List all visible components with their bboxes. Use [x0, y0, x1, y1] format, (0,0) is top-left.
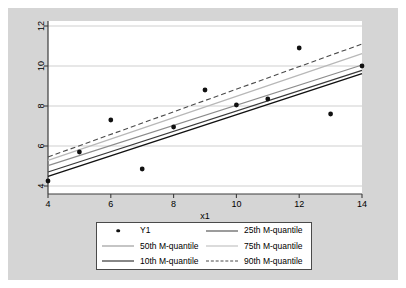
x-tick-label: 10 [231, 199, 241, 209]
legend-item-label: 50th M-quantile [140, 242, 199, 251]
line-icon [102, 245, 134, 246]
x-axis-label: x1 [200, 211, 210, 221]
y-tick-label: 8 [36, 103, 46, 108]
scatter-point [171, 125, 176, 130]
legend-item: 75th M-quantile [201, 238, 313, 253]
legend-line-icon [205, 241, 239, 251]
x-tick-label: 4 [45, 199, 50, 209]
legend-item: 25th M-quantile [201, 223, 313, 238]
line-icon [206, 245, 238, 246]
line-icon [102, 261, 134, 262]
y-tick-label: 4 [36, 183, 46, 188]
line-icon [206, 261, 238, 262]
scatter-point [328, 112, 333, 117]
legend-item-label: 25th M-quantile [244, 226, 303, 235]
y-tick-label: 12 [36, 21, 46, 31]
scatter-point [360, 64, 365, 69]
x-tick-label: 12 [294, 199, 304, 209]
legend-line-icon [205, 226, 239, 236]
legend-line-icon [205, 256, 239, 266]
legend-item: 50th M-quantile [97, 238, 201, 253]
scatter-point [234, 103, 239, 108]
legend-item-label: 90th M-quantile [244, 257, 303, 266]
x-tick-label: 8 [171, 199, 176, 209]
scatter-point [46, 179, 51, 184]
legend-item: Y1 [97, 223, 201, 238]
legend-item-label: 10th M-quantile [140, 257, 199, 266]
y-tick-label: 10 [36, 61, 46, 71]
dot-icon [116, 229, 120, 233]
scatter-point [77, 150, 82, 155]
x-tick-label: 14 [357, 199, 367, 209]
legend: Y125th M-quantile50th M-quantile75th M-q… [96, 222, 312, 270]
scatter-point [108, 118, 113, 123]
y-tick-label: 6 [36, 143, 46, 148]
legend-line-icon [101, 241, 135, 251]
legend-item-label: Y1 [140, 226, 150, 235]
scatter-point [297, 46, 302, 51]
x-tick-label: 6 [108, 199, 113, 209]
scatter-point [265, 97, 270, 102]
legend-item: 10th M-quantile [97, 254, 201, 269]
legend-marker-dot-icon [101, 226, 135, 236]
scatter-point [140, 167, 145, 172]
x-axis-title: x1 [200, 211, 210, 221]
scatter-point [203, 88, 208, 93]
legend-line-icon [101, 256, 135, 266]
legend-item-label: 75th M-quantile [244, 242, 303, 251]
line-icon [206, 230, 238, 231]
legend-item: 90th M-quantile [201, 254, 313, 269]
